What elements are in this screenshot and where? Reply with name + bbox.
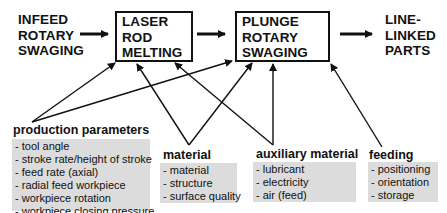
arrow-production-to-plunge: [32, 61, 232, 122]
production-parameters-list: - tool angle - stroke rate/height of str…: [12, 139, 150, 211]
list-item: - workpiece rotation: [15, 192, 147, 205]
auxiliary-material-list: - lubricant - electricity - air (feed): [253, 162, 356, 202]
list-item: - stroke rate/height of stroke: [15, 153, 147, 166]
list-item: - feed rate (axial): [15, 166, 147, 179]
stage-label-line: LASER: [122, 14, 186, 30]
list-item: - electricity: [256, 176, 353, 189]
list-item: - tool angle: [15, 140, 147, 153]
list-item: - radial feed workpiece: [15, 179, 147, 192]
auxiliary-material-title: auxiliary material: [256, 147, 358, 161]
stage-label-line: ROTARY: [242, 30, 323, 46]
stage-label-line: LINE-: [385, 12, 436, 28]
list-item: - lubricant: [256, 163, 353, 176]
stage-label-line: INFEED: [18, 12, 84, 28]
stage-label-line: ROD: [122, 30, 186, 46]
list-item: - air (feed): [256, 189, 353, 202]
stage-label-line: MELTING: [122, 45, 186, 61]
stage-laser-rod-melting-box: LASER ROD MELTING: [115, 11, 193, 62]
stage-label-line: ROTARY: [18, 28, 84, 44]
stage-label-line: SWAGING: [242, 45, 323, 61]
list-item: - workpiece closing pressure: [15, 205, 147, 213]
stage-infeed-rotary-swaging: INFEED ROTARY SWAGING: [18, 12, 84, 59]
arrow-feeding-to-plunge: [331, 64, 382, 147]
stage-label-line: PLUNGE: [242, 14, 323, 30]
list-item: - surface quality: [163, 190, 234, 203]
material-title: material: [163, 148, 211, 162]
stage-plunge-rotary-swaging-box: PLUNGE ROTARY SWAGING: [235, 11, 330, 62]
stage-label-line: LINKED: [385, 28, 436, 44]
arrow-production-to-laser: [32, 63, 115, 122]
material-list: - material - structure - surface quality: [160, 163, 237, 203]
stage-label-line: PARTS: [385, 43, 436, 59]
feeding-list: - positioning - orientation - storage: [368, 162, 438, 202]
arrow-auxiliary-to-laser: [175, 63, 273, 145]
stage-line-linked-parts: LINE- LINKED PARTS: [385, 12, 436, 59]
list-item: - storage: [371, 189, 435, 202]
list-item: - positioning: [371, 163, 435, 176]
production-parameters-title: production parameters: [13, 123, 149, 137]
feeding-title: feeding: [369, 148, 413, 162]
list-item: - material: [163, 164, 234, 177]
list-item: - orientation: [371, 176, 435, 189]
arrow-material-to-plunge: [189, 63, 252, 145]
list-item: - structure: [163, 177, 234, 190]
stage-label-line: SWAGING: [18, 43, 84, 59]
